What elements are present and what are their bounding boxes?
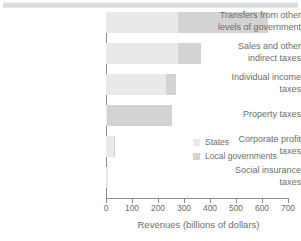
bar-segment [106, 12, 178, 33]
legend-item-local-governments: Local governments [193, 151, 277, 162]
category-label-line: Property taxes [201, 109, 301, 121]
bar-row [106, 74, 176, 95]
chart-figure: Transfers from otherlevels of government… [0, 0, 301, 241]
bar-row [106, 43, 201, 64]
legend-item-states: States [193, 137, 277, 148]
x-axis-tick-label: 200 [146, 203, 170, 213]
category-label-line: Individual income [201, 72, 301, 84]
bar-segment [178, 43, 201, 64]
category-label-line: Sales and other [201, 41, 301, 53]
scan-header-band [3, 2, 298, 8]
bar-row [106, 105, 172, 126]
x-axis-title: Revenues (billions of dollars) [106, 219, 291, 230]
category-label: Individual incometaxes [201, 72, 301, 95]
x-axis-tick-label: 600 [250, 203, 274, 213]
category-label: Social insurancetaxes [201, 165, 301, 188]
bar-row [106, 136, 114, 157]
bar-row [106, 167, 108, 188]
category-label: Sales and otherindirect taxes [201, 41, 301, 64]
x-axis-tick-label: 100 [120, 203, 144, 213]
category-label-line: Transfers from other [201, 10, 301, 22]
bar-segment [106, 43, 178, 64]
legend-swatch-states-icon [193, 139, 200, 146]
category-label-line: levels of government [201, 22, 301, 34]
category-label: Transfers from otherlevels of government [201, 10, 301, 33]
bar-segment [107, 105, 172, 126]
category-label-line: taxes [201, 84, 301, 96]
category-label-line: taxes [201, 177, 301, 189]
x-axis-tick-label: 400 [198, 203, 222, 213]
x-axis-tick-label: 0 [94, 203, 118, 213]
bar-segment [106, 74, 166, 95]
x-axis-tick-label: 500 [224, 203, 248, 213]
x-axis-tick-label: 700 [276, 203, 300, 213]
bar-segment [114, 136, 115, 157]
bar-segment [106, 136, 114, 157]
legend-label-states: States [205, 137, 229, 148]
bar-segment [106, 167, 108, 188]
legend-swatch-local-governments-icon [193, 153, 200, 160]
category-label: Property taxes [201, 109, 301, 121]
legend: States Local governments [193, 137, 277, 165]
bar-segment [166, 74, 176, 95]
x-axis-tick-label: 300 [172, 203, 196, 213]
category-label-line: indirect taxes [201, 53, 301, 65]
legend-label-local-governments: Local governments [205, 151, 277, 162]
category-label-line: Social insurance [201, 165, 301, 177]
